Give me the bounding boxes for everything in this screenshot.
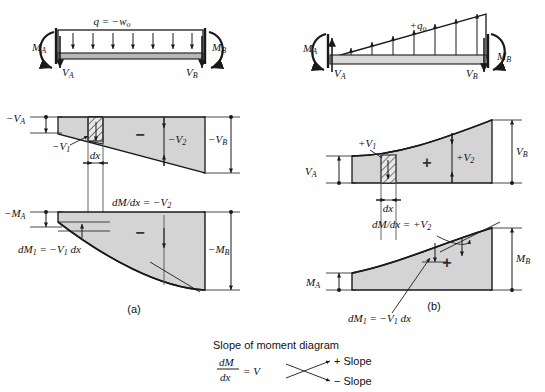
panel-a-moment-diagram: − dM/dx = −V2 dM1 = −V1 dx −MA −MB (a: [4, 196, 240, 315]
v1-label-a: −V1: [52, 140, 70, 154]
beam-shear-moment-diagram: q = −wo MA MB VA VB dx: [0, 0, 545, 392]
moment-sign-a: −: [135, 224, 144, 241]
legend-title: Slope of moment diagram: [213, 339, 339, 351]
moment-mb-dim-b: MB: [515, 252, 530, 266]
panel-caption-b: (b): [427, 300, 440, 312]
shear-sign-b: +: [422, 154, 431, 171]
legend-minus-slope-arrow: [286, 364, 330, 381]
moment-mb-dim-a: −MB: [208, 243, 230, 257]
moment-ma-dim-b: MA: [305, 276, 320, 290]
panel-b-beam: +qo MA MB VA VB: [302, 14, 511, 81]
moment-ma-dim-a: −MA: [4, 207, 26, 221]
legend: Slope of moment diagram dM dx = V + Slop…: [213, 339, 372, 387]
load-label-b: +qo: [410, 19, 427, 33]
dx-label-a: dx: [90, 149, 101, 161]
dm1-label-b: dM1 = −V1 dx: [348, 312, 411, 326]
shear-vb-label-a: VB: [186, 66, 198, 80]
legend-frac-equals: = V: [243, 365, 261, 377]
legend-frac-denominator: dx: [220, 371, 231, 383]
shear-vb-dim-a: −VB: [208, 133, 227, 147]
load-label-a: q = −wo: [93, 15, 130, 29]
slope-label-b: dM/dx = +V2: [372, 218, 431, 232]
shear-sign-a: −: [135, 126, 144, 143]
moment-ma-label-a: MA: [31, 41, 46, 55]
shear-va-label-a: VA: [62, 66, 74, 80]
legend-minus-slope-label: − Slope: [334, 375, 372, 387]
moment-mb-label-b: MB: [496, 50, 511, 64]
dx-label-b: dx: [383, 202, 394, 214]
shear-vb-dim-b: VB: [516, 145, 528, 159]
shear-va-dim-b: VA: [305, 165, 317, 179]
figure-root: q = −wo MA MB VA VB dx: [0, 0, 545, 392]
moment-mb-label-a: MB: [211, 41, 226, 55]
shear-vb-label-b: VB: [466, 67, 478, 81]
panel-b-moment-diagram: + dM/dx = +V2 dM1 = −V1 dx MA MB: [305, 218, 530, 326]
legend-plus-slope-label: + Slope: [334, 355, 372, 367]
v1-label-b: +V1: [358, 137, 376, 151]
legend-plus-slope-arrow: [286, 361, 330, 378]
panel-a-beam: q = −wo MA MB VA VB: [31, 15, 226, 80]
legend-frac-numerator: dM: [219, 356, 235, 368]
shear-va-label-b: VA: [334, 67, 346, 81]
dm1-label-a: dM1 = −V1 dx: [18, 243, 81, 257]
slope-label-a: dM/dx = −V2: [112, 196, 171, 210]
shear-va-dim-a: −VA: [6, 112, 25, 126]
moment-sign-b: +: [442, 254, 451, 271]
panel-caption-a: (a): [127, 303, 140, 315]
